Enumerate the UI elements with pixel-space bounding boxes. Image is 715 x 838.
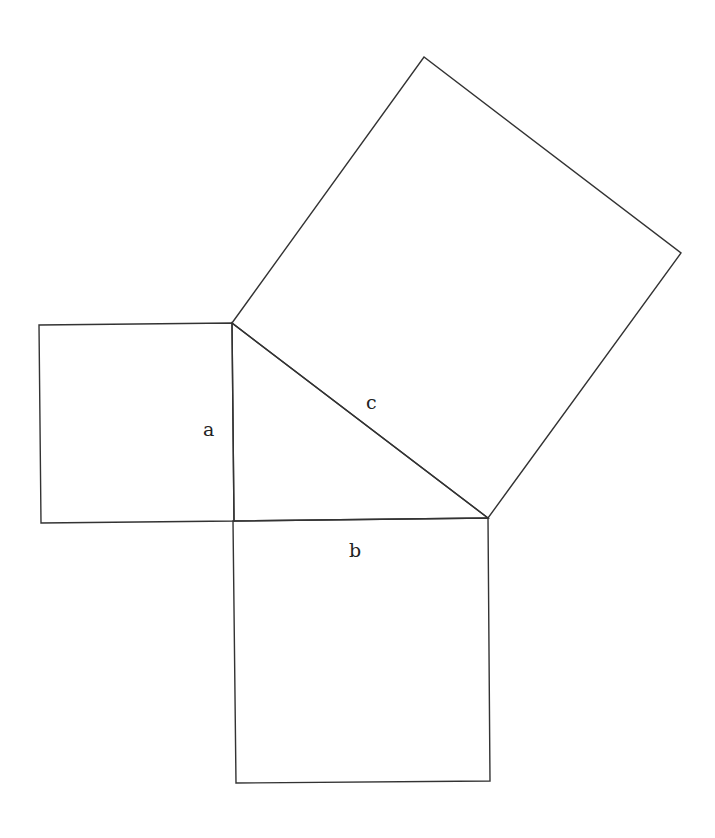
square-on-side-b	[233, 518, 490, 783]
pythagorean-diagram: a b c	[0, 0, 715, 838]
label-b: b	[349, 539, 361, 561]
label-a: a	[203, 418, 214, 440]
label-c: c	[366, 391, 377, 413]
square-on-hypotenuse-c	[232, 57, 681, 518]
right-triangle	[232, 323, 488, 521]
